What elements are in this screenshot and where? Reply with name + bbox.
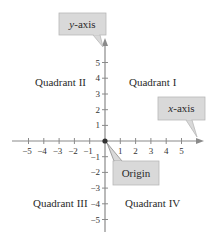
quadrant-ii-label: Quadrant II — [35, 76, 86, 88]
svg-text:4: 4 — [164, 146, 169, 156]
svg-text:x-axis: x-axis — [167, 102, 194, 114]
origin-callout-label: Origin — [122, 167, 151, 179]
svg-text:−5: −5 — [22, 146, 32, 156]
svg-text:−2: −2 — [90, 167, 100, 177]
svg-text:−3: −3 — [53, 146, 63, 156]
svg-text:5: 5 — [96, 58, 101, 68]
y-tick-labels-negative: −1 −2 −3 −4 −5 — [90, 152, 100, 225]
y-axis-callout-suffix: -axis — [74, 18, 95, 30]
svg-text:−1: −1 — [90, 152, 100, 162]
svg-text:−2: −2 — [68, 146, 78, 156]
quadrant-iii-label: Quadrant III — [33, 197, 88, 209]
svg-text:2: 2 — [133, 146, 138, 156]
coordinate-plane: −5 −4 −3 −2 −1 1 2 3 4 5 5 4 3 2 1 −1 −2… — [0, 0, 216, 248]
svg-text:y-axis: y-axis — [68, 18, 95, 30]
y-axis-arrow-icon — [102, 38, 108, 46]
svg-text:3: 3 — [149, 146, 154, 156]
quadrant-iv-label: Quadrant IV — [125, 197, 180, 209]
svg-text:−5: −5 — [90, 215, 100, 225]
svg-text:3: 3 — [96, 89, 101, 99]
x-axis-callout: x-axis — [158, 97, 205, 137]
svg-text:1: 1 — [96, 120, 101, 130]
svg-text:−4: −4 — [37, 146, 47, 156]
svg-text:−3: −3 — [90, 183, 100, 193]
y-tick-labels-positive: 5 4 3 2 1 — [96, 58, 101, 131]
x-tick-labels: −5 −4 −3 −2 −1 1 2 3 4 5 — [22, 146, 184, 156]
quadrant-i-label: Quadrant I — [129, 76, 177, 88]
y-axis-callout: y-axis — [59, 13, 106, 47]
svg-text:2: 2 — [96, 105, 101, 115]
x-axis-arrow-icon — [196, 138, 204, 144]
x-axis-callout-suffix: -axis — [173, 102, 194, 114]
svg-text:1: 1 — [118, 146, 123, 156]
svg-text:5: 5 — [179, 146, 184, 156]
svg-text:4: 4 — [96, 73, 101, 83]
origin-point — [102, 138, 107, 143]
svg-text:−4: −4 — [90, 199, 100, 209]
